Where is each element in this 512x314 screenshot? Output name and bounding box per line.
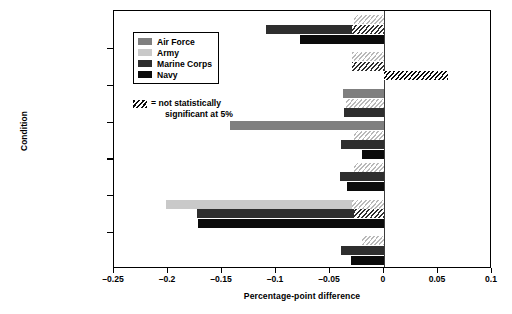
x-axis-tick <box>221 268 222 273</box>
bar-segment-hatched <box>362 236 384 245</box>
bar-segment-hatched <box>352 200 384 209</box>
chart-bar <box>197 209 384 218</box>
bar-segment-solid <box>343 89 384 98</box>
x-axis-tick <box>275 268 276 273</box>
chart-bar <box>198 219 384 228</box>
bar-segment-solid <box>266 25 351 34</box>
bar-segment-solid <box>230 121 384 130</box>
significance-note-text: = not statisticallysignificant at 5% <box>151 98 233 119</box>
chart-bar <box>351 256 384 265</box>
chart-bar <box>354 163 384 172</box>
legend-item-navy: Navy <box>138 69 212 80</box>
chart-bar <box>354 15 384 24</box>
chart-figure: Condition Abdominal:loosened 2004Asthma:… <box>0 0 512 314</box>
chart-bar <box>341 246 384 255</box>
x-axis-tick-label: 0.05 <box>417 274 457 284</box>
bar-segment-solid <box>166 200 352 209</box>
legend-label: Marine Corps <box>157 59 212 69</box>
x-axis-title: Percentage-point difference <box>113 291 491 301</box>
chart-bar <box>352 62 384 71</box>
legend-item-air-force: Air Force <box>138 36 212 47</box>
bar-segment-solid <box>341 246 384 255</box>
bar-segment-hatched <box>354 15 384 24</box>
x-axis-tick <box>329 268 330 273</box>
y-axis-tick <box>107 195 114 196</box>
bar-segment-hatched <box>346 99 384 108</box>
y-axis-tick <box>107 232 114 233</box>
chart-bar <box>354 131 384 140</box>
y-axis-title: Condition <box>19 81 29 181</box>
y-axis-tick <box>107 85 114 86</box>
chart-bar <box>384 71 448 80</box>
bar-segment-hatched <box>354 163 384 172</box>
bar-segment-hatched <box>352 25 384 34</box>
chart-bar <box>347 182 384 191</box>
x-axis-tick-label: 0.1 <box>471 274 511 284</box>
legend-swatch <box>138 49 152 56</box>
y-axis-tick <box>107 48 114 49</box>
x-axis-tick-label: –0.05 <box>309 274 349 284</box>
bar-segment-hatched <box>384 71 448 80</box>
category-row: Hearing:tightened 2005 <box>114 158 490 195</box>
chart-bar <box>300 35 384 44</box>
y-axis-tick <box>107 158 114 159</box>
bar-segment-hatched <box>354 209 384 218</box>
bar-segment-solid <box>344 108 384 117</box>
chart-bar <box>340 172 384 181</box>
significance-note-line: significant at 5% <box>151 109 233 120</box>
legend-swatch <box>138 60 152 67</box>
legend-label: Air Force <box>157 37 195 47</box>
x-axis-tick-label: 0 <box>363 274 403 284</box>
x-axis-tick <box>491 268 492 273</box>
chart-bar <box>362 236 384 245</box>
x-axis-tick <box>167 268 168 273</box>
x-axis-tick-label: –0.1 <box>255 274 295 284</box>
x-axis-tick-label: –0.2 <box>147 274 187 284</box>
legend-item-army: Army <box>138 47 212 58</box>
x-axis-tick <box>383 268 384 273</box>
bar-segment-hatched <box>352 52 384 61</box>
bar-segment-solid <box>197 209 354 218</box>
bar-segment-solid <box>300 35 384 44</box>
chart-bar <box>166 200 384 209</box>
legend-label: Navy <box>157 70 178 80</box>
x-axis-tick-label: –0.25 <box>93 274 133 284</box>
chart-bar <box>230 121 384 130</box>
legend: Air ForceArmyMarine CorpsNavy <box>133 32 219 84</box>
chart-bar <box>346 99 384 108</box>
bar-segment-solid <box>198 219 384 228</box>
bar-segment-solid <box>340 172 384 181</box>
hatch-swatch-icon <box>133 100 147 108</box>
bar-segment-hatched <box>352 62 384 71</box>
legend-swatch <box>138 71 152 78</box>
chart-bar <box>344 108 384 117</box>
bar-segment-solid <box>341 140 384 149</box>
x-axis-tick <box>437 268 438 273</box>
significance-note-line: = not statistically <box>151 98 233 109</box>
bar-segment-solid <box>347 182 384 191</box>
legend-label: Army <box>157 48 179 58</box>
chart-bar <box>343 89 384 98</box>
chart-bar <box>266 25 384 34</box>
bar-segment-hatched <box>354 131 384 140</box>
chart-bar <box>352 52 384 61</box>
legend-swatch <box>138 38 152 45</box>
legend-item-marine-corps: Marine Corps <box>138 58 212 69</box>
chart-bar <box>341 140 384 149</box>
bar-segment-solid <box>351 256 384 265</box>
y-axis-tick <box>107 122 114 123</box>
significance-note: = not statisticallysignificant at 5% <box>133 98 233 119</box>
category-row: Endocrine:tightened 2005 <box>114 232 490 269</box>
x-axis-tick-label: –0.15 <box>201 274 241 284</box>
x-axis-tick <box>113 268 114 273</box>
